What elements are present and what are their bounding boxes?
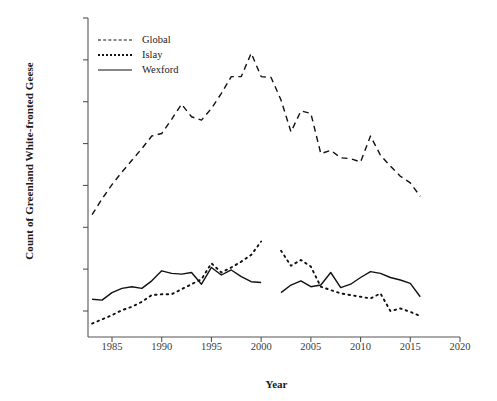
y-axis-title: Count of Greenland White-fronted Geese [23,46,35,276]
legend-swatch-dashed-icon [98,34,132,46]
x-tick-label: 1990 [151,341,172,352]
x-tick-label: 2005 [300,341,321,352]
legend-swatch-dotted-icon [98,49,132,61]
x-tick-label: 2000 [251,341,272,352]
series-line-wexford [92,267,261,300]
x-tick-label: 2020 [450,341,471,352]
x-tick-label: 2010 [350,341,371,352]
x-axis-title-text: Year [266,378,288,390]
x-tick-label: 1985 [102,341,123,352]
data-series-layer [92,53,420,323]
series-line-islay [92,242,261,324]
chart-legend: GlobalIslayWexford [98,32,178,77]
x-tick-label: 1995 [201,341,222,352]
y-axis-tick-labels: 5,00010,00015,00020,00025,00030,00035,00… [0,0,84,401]
legend-item-wexford: Wexford [98,62,178,77]
chart-figure: 5,00010,00015,00020,00025,00030,00035,00… [0,0,497,401]
x-tick-label: 2015 [400,341,421,352]
legend-item-global: Global [98,32,178,47]
legend-swatch-solid-icon [98,64,132,76]
legend-label: Wexford [142,64,178,75]
legend-item-islay: Islay [98,47,178,62]
legend-label: Global [142,34,171,45]
series-line-global [92,53,420,215]
x-axis-title: Year [0,378,497,390]
series-line-wexford [281,272,420,297]
legend-label: Islay [142,49,162,60]
